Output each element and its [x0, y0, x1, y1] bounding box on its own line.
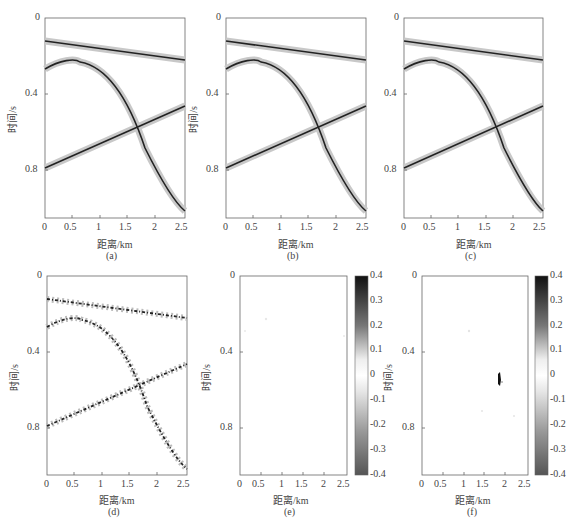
x-tick: 1.5	[476, 478, 489, 489]
x-tick: 2	[333, 221, 338, 232]
y-tick: 0.4	[220, 345, 233, 356]
y-tick: 0	[394, 11, 399, 22]
colorbar-tick: -0.1	[550, 393, 566, 404]
y-tick: 0.4	[25, 87, 38, 98]
plot-area-f	[422, 276, 528, 475]
x-tick: 1.5	[295, 478, 308, 489]
x-tick: 2	[154, 478, 159, 489]
x-tick: 2.5	[175, 221, 188, 232]
colorbar-e: 0.4 0.3 0.2 0.1 0 -0.1 -0.2 -0.3 -0.4	[355, 276, 369, 475]
y-axis-title: 时间/s	[198, 364, 213, 391]
x-tick: 1	[279, 478, 284, 489]
x-tick: 0	[237, 478, 242, 489]
x-tick: 0	[42, 221, 47, 232]
panel-label: (f)	[467, 506, 477, 517]
y-axis-title: 时间/s	[380, 364, 395, 391]
x-tick: 2	[502, 478, 507, 489]
panel-a: 0 0.4 0.8 0 0.5 1 1.5 2 2.5 距离/km 时间/s (…	[45, 18, 185, 218]
panel-label: (a)	[106, 250, 117, 261]
panel-c: 0 0.4 0.8 0 0.5 1 1.5 2 2.5 距离/km (c)	[404, 18, 543, 218]
y-axis-title: 时间/s	[6, 364, 21, 391]
colorbar-tick: -0.4	[550, 468, 566, 479]
y-tick: 0	[230, 269, 235, 280]
x-tick: 2.5	[337, 478, 350, 489]
y-tick: 0	[216, 11, 221, 22]
y-tick: 0.4	[206, 87, 219, 98]
plot-area-b	[226, 18, 366, 218]
colorbar-tick: -0.3	[370, 443, 386, 454]
colorbar-tick: 0	[550, 368, 555, 379]
panel-label: (c)	[465, 250, 476, 261]
colorbar-tick: 0.1	[550, 343, 563, 354]
colorbar-tick: -0.3	[550, 443, 566, 454]
colorbar-tick: 0.4	[550, 269, 563, 280]
x-tick: 1.5	[121, 478, 134, 489]
y-axis-title: 时间/s	[4, 106, 19, 133]
x-tick: 2.5	[356, 221, 369, 232]
x-tick: 2	[152, 221, 157, 232]
colorbar-tick: -0.1	[370, 393, 386, 404]
y-tick: 0.8	[220, 421, 233, 432]
y-tick: 0.8	[27, 421, 40, 432]
x-tick: 1.5	[478, 221, 491, 232]
plot-area-a	[45, 18, 185, 218]
panel-b: 0 0.4 0.8 0 0.5 1 1.5 2 2.5 距离/km 时间/s (…	[226, 18, 366, 218]
colorbar-f: 0.4 0.3 0.2 0.1 0 -0.1 -0.2 -0.3 -0.4	[535, 276, 549, 475]
colorbar-tick: 0.3	[550, 294, 563, 305]
colorbar-tick: -0.4	[370, 468, 386, 479]
x-axis-title: 距离/km	[97, 236, 133, 251]
x-tick: 1	[455, 221, 460, 232]
colorbar-tick: 0.4	[370, 269, 383, 280]
y-tick: 0	[412, 269, 417, 280]
plot-area-d	[47, 276, 187, 475]
plot-area-e	[240, 276, 347, 475]
x-axis-title: 距离/km	[456, 236, 492, 251]
x-tick: 2	[321, 478, 326, 489]
x-tick: 1	[98, 478, 103, 489]
x-tick: 2.5	[518, 478, 531, 489]
x-tick: 2.5	[533, 221, 546, 232]
panel-label: (b)	[287, 250, 299, 261]
x-tick: 0	[44, 478, 49, 489]
y-tick: 0	[35, 11, 40, 22]
x-tick: 0	[419, 478, 424, 489]
x-tick: 0.5	[252, 478, 265, 489]
x-axis-title: 距离/km	[273, 492, 309, 507]
x-axis-title: 距离/km	[99, 492, 135, 507]
colorbar-tick: 0.2	[370, 319, 383, 330]
y-tick: 0.4	[384, 87, 397, 98]
plot-area-c	[404, 18, 543, 218]
y-axis-title: 时间/s	[185, 106, 200, 133]
y-tick: 0.4	[27, 345, 40, 356]
colorbar-tick: -0.2	[550, 418, 566, 429]
panel-label: (e)	[284, 506, 295, 517]
panel-f: 0 0.4 0.8 0 0.5 1 1.5 2 2.5 距离/km 时间/s (…	[422, 276, 528, 475]
x-tick: 1	[277, 221, 282, 232]
colorbar-tick: 0.2	[550, 319, 563, 330]
y-tick: 0.8	[25, 163, 38, 174]
colorbar-tick: 0	[370, 368, 375, 379]
x-tick: 0.5	[423, 221, 436, 232]
x-tick: 1.5	[300, 221, 313, 232]
x-tick: 0	[401, 221, 406, 232]
colorbar-tick: 0.3	[370, 294, 383, 305]
x-tick: 0.5	[245, 221, 258, 232]
x-tick: 0.5	[66, 478, 79, 489]
x-tick: 1	[96, 221, 101, 232]
colorbar-tick: -0.2	[370, 418, 386, 429]
panel-label: (d)	[108, 506, 120, 517]
x-tick: 0.5	[434, 478, 447, 489]
x-tick: 2	[510, 221, 515, 232]
panel-d: 0 0.4 0.8 0 0.5 1 1.5 2 2.5 距离/km 时间/s (…	[47, 276, 187, 475]
y-tick: 0.4	[402, 345, 415, 356]
colorbar-tick: 0.1	[370, 343, 383, 354]
x-tick: 0	[223, 221, 228, 232]
x-axis-title: 距离/km	[278, 236, 314, 251]
y-tick: 0.8	[402, 421, 415, 432]
y-tick: 0.8	[206, 163, 219, 174]
y-tick: 0.8	[384, 163, 397, 174]
y-tick: 0	[37, 269, 42, 280]
x-tick: 0.5	[64, 221, 77, 232]
x-tick: 2.5	[177, 478, 190, 489]
x-tick: 1	[461, 478, 466, 489]
